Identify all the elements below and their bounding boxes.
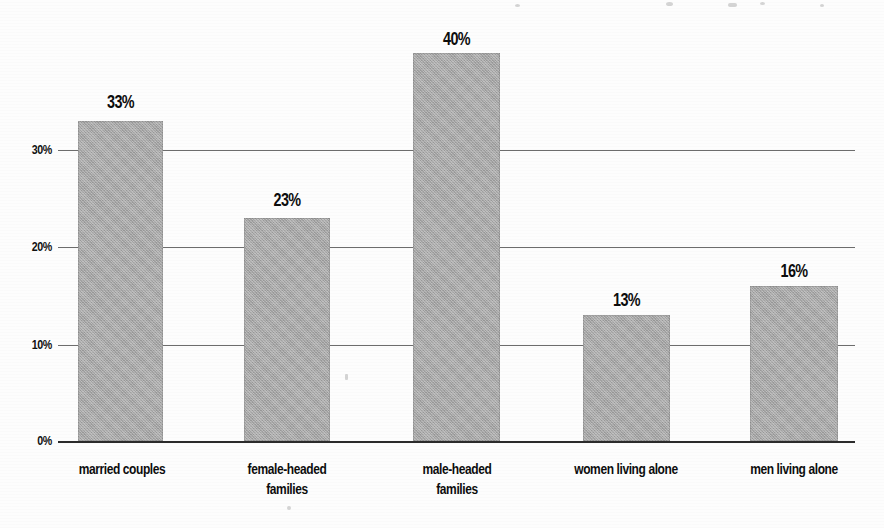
value-label-female-headed: 23% (253, 191, 322, 209)
bar-married-couples[interactable] (78, 121, 163, 441)
x-axis-label-male-headed: male-headed families (393, 459, 521, 500)
x-axis-label-women-living-alone: women living alone (562, 459, 690, 479)
bar-female-headed[interactable] (244, 218, 330, 441)
scan-speck (760, 2, 765, 5)
scan-speck (515, 4, 520, 7)
y-axis-label-10: 10% (9, 338, 52, 351)
scan-speck (287, 506, 291, 510)
y-axis-tick-10 (58, 345, 78, 346)
value-label-men-living-alone: 16% (759, 262, 829, 280)
value-label-male-headed: 40% (422, 30, 492, 48)
bar-men-living-alone[interactable] (750, 286, 838, 441)
bar-male-headed[interactable] (413, 53, 500, 441)
x-axis-label-married-couples: married couples (58, 459, 186, 479)
y-axis-label-30: 30% (9, 143, 52, 156)
scan-speck (666, 2, 673, 6)
scan-speck (820, 4, 824, 7)
value-label-women-living-alone: 13% (592, 291, 662, 309)
plot-area (78, 20, 855, 441)
y-axis-tick-30 (58, 150, 78, 151)
x-axis-label-men-living-alone: men living alone (730, 459, 858, 479)
y-axis-label-20: 20% (9, 240, 52, 253)
value-label-married-couples: 33% (87, 93, 155, 111)
y-axis-tick-0 (58, 441, 78, 443)
y-axis-label-0: 0% (9, 434, 52, 447)
x-axis-label-female-headed: female-headed families (223, 459, 351, 500)
scan-speck (728, 3, 737, 7)
y-axis-tick-20 (58, 247, 78, 248)
bar-chart-figure: 30% 20% 10% 0% 33% 23% 40% 13% 16% marri… (0, 0, 884, 528)
bar-women-living-alone[interactable] (583, 315, 670, 441)
x-axis-baseline (78, 441, 855, 443)
